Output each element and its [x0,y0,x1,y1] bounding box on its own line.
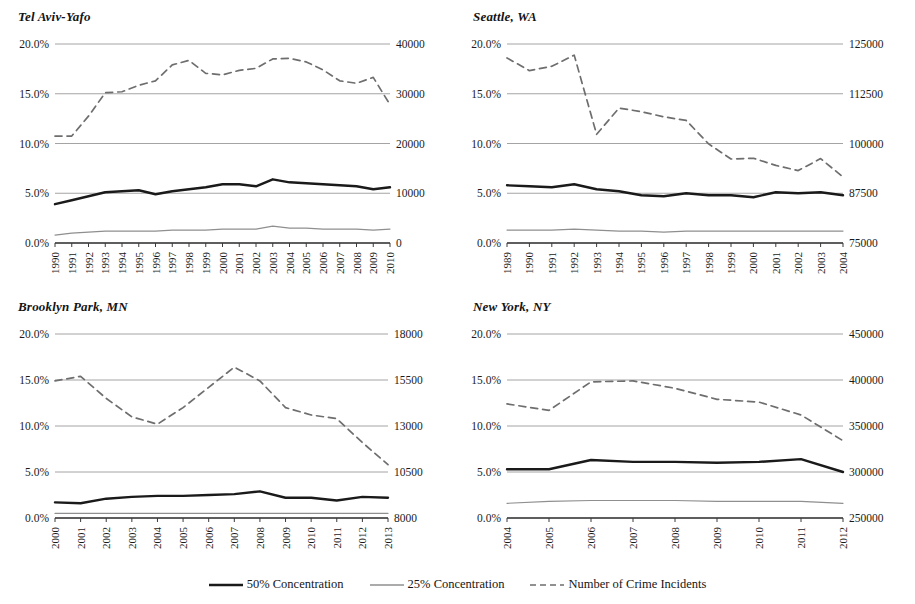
series-line [55,179,390,204]
x-axis-tick-label: 2007 [627,527,639,550]
x-axis-tick-label: 1997 [166,252,178,275]
chart-canvas: 0.0%750005.0%8750010.0%10000015.0%112500… [455,0,915,275]
chart-panel-3: Brooklyn Park, MN0.0%80005.0%1050010.0%1… [0,290,455,565]
y-axis-left-tick-label: 15.0% [19,374,49,386]
series-line [55,367,388,465]
chart-canvas: 0.0%05.0%1000010.0%2000015.0%3000020.0%4… [0,0,455,290]
x-axis-tick-label: 2004 [501,527,513,550]
x-axis-tick-label: 2005 [300,252,312,275]
x-axis-tick-label: 1992 [568,252,580,274]
x-axis-tick-label: 2002 [250,252,262,274]
y-axis-left-tick-label: 10.0% [471,420,501,432]
y-axis-left-tick-label: 0.0% [25,237,49,249]
series-line [507,501,843,504]
y-axis-left-tick-label: 20.0% [19,38,49,50]
x-axis-tick-label: 2001 [75,527,87,549]
y-axis-right-tick-label: 87500 [849,187,878,199]
y-axis-right-tick-label: 10000 [396,187,425,199]
series-line [507,381,843,441]
x-axis-tick-label: 2009 [367,252,379,275]
y-axis-right-tick-label: 15500 [394,374,423,386]
x-axis-tick-label: 2008 [351,252,363,275]
y-axis-left-tick-label: 0.0% [477,512,501,524]
y-axis-right-tick-label: 8000 [394,512,417,524]
x-axis-tick-label: 2012 [837,527,849,549]
y-axis-left-tick-label: 5.0% [25,187,49,199]
y-axis-right-tick-label: 450000 [849,328,884,340]
x-axis-tick-label: 2001 [770,252,782,274]
y-axis-left-tick-label: 15.0% [471,374,501,386]
y-axis-right-tick-label: 250000 [849,512,884,524]
y-axis-left-tick-label: 20.0% [19,328,49,340]
series-line [507,55,843,177]
x-axis-tick-label: 2013 [382,527,394,550]
x-axis-tick-label: 2010 [305,527,317,550]
y-axis-left-tick-label: 0.0% [477,237,501,249]
x-axis-tick-label: 2005 [543,527,555,550]
x-axis-tick-label: 2008 [669,527,681,550]
series-line [507,459,843,472]
x-axis-tick-label: 1998 [183,252,195,275]
y-axis-left-tick-label: 0.0% [25,512,49,524]
x-axis-tick-label: 2009 [280,527,292,550]
x-axis-tick-label: 1995 [635,252,647,275]
x-axis-tick-label: 1989 [501,252,513,275]
legend-label: 50% Concentration [247,578,344,591]
y-axis-right-tick-label: 400000 [849,374,884,386]
x-axis-tick-label: 2010 [753,527,765,550]
x-axis-tick-label: 2004 [837,252,849,275]
x-axis-tick-label: 2006 [203,527,215,550]
x-axis-tick-label: 2002 [792,252,804,274]
x-axis-tick-label: 2006 [317,252,329,275]
y-axis-right-tick-label: 350000 [849,420,884,432]
series-line [507,229,843,232]
x-axis-tick-label: 2006 [585,527,597,550]
x-axis-tick-label: 1991 [66,252,78,274]
x-axis-tick-label: 2000 [747,252,759,275]
series-line [507,184,843,197]
chart-canvas: 0.0%80005.0%1050010.0%1300015.0%1550020.… [0,290,455,580]
y-axis-left-tick-label: 15.0% [471,88,501,100]
x-axis-tick-label: 2007 [228,527,240,550]
x-axis-tick-label: 2000 [217,252,229,275]
y-axis-right-tick-label: 100000 [849,138,884,150]
x-axis-tick-label: 1990 [49,252,61,275]
x-axis-tick-label: 2009 [711,527,723,550]
legend-item-3: Number of Crime Incidents [530,578,706,591]
series-line [55,491,388,503]
y-axis-right-tick-label: 112500 [849,88,883,100]
x-axis-tick-label: 1998 [703,252,715,275]
x-axis-tick-label: 1996 [150,252,162,275]
legend-item-1: 50% Concentration [209,578,344,591]
x-axis-tick-label: 2010 [384,252,396,275]
x-axis-tick-label: 1996 [658,252,670,275]
x-axis-tick-label: 2007 [334,252,346,275]
y-axis-right-tick-label: 300000 [849,466,884,478]
x-axis-tick-label: 1994 [116,252,128,275]
y-axis-right-tick-label: 18000 [394,328,423,340]
chart-panel-2: Seattle, WA0.0%750005.0%8750010.0%100000… [455,0,915,290]
y-axis-right-tick-label: 0 [396,237,402,249]
x-axis-tick-label: 1999 [200,252,212,275]
y-axis-left-tick-label: 15.0% [19,88,49,100]
x-axis-tick-label: 2012 [356,527,368,549]
chart-panel-1: Tel Aviv-Yafo0.0%05.0%1000010.0%2000015.… [0,0,455,290]
y-axis-left-tick-label: 5.0% [477,187,501,199]
x-axis-tick-label: 1992 [83,252,95,274]
y-axis-left-tick-label: 5.0% [477,466,501,478]
y-axis-left-tick-label: 10.0% [471,138,501,150]
legend-swatch-solid-thick [209,580,243,590]
x-axis-tick-label: 1991 [546,252,558,274]
y-axis-right-tick-label: 30000 [396,88,425,100]
x-axis-tick-label: 2004 [151,527,163,550]
y-axis-left-tick-label: 10.0% [19,138,49,150]
x-axis-tick-label: 1999 [725,252,737,275]
chart-panel-4: New York, NY0.0%2500005.0%30000010.0%350… [455,290,915,565]
x-axis-tick-label: 1993 [99,252,111,275]
y-axis-right-tick-label: 10500 [394,466,423,478]
x-axis-tick-label: 2003 [126,527,138,550]
x-axis-tick-label: 2003 [267,252,279,275]
series-line [55,226,390,235]
chart-canvas: 0.0%2500005.0%30000010.0%35000015.0%4000… [455,290,915,565]
legend-swatch-solid-thin [370,580,404,590]
